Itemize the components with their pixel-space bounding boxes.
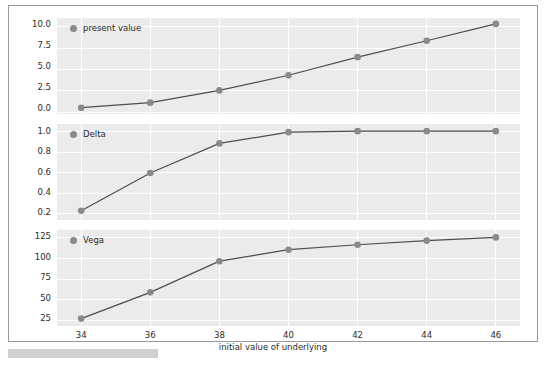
x-tick-label: 40 (274, 330, 304, 340)
y-tick-label: 10.0 (9, 19, 51, 29)
legend-marker-icon (70, 237, 77, 244)
y-tick-label: 25 (9, 313, 51, 323)
y-tick-label: 0.0 (9, 103, 51, 113)
data-point (354, 128, 361, 135)
panel-present-value: present value (57, 18, 520, 114)
legend-marker-icon (70, 25, 77, 32)
data-point (423, 237, 430, 244)
legend-vega: Vega (70, 235, 104, 245)
y-tick-label: 2.5 (9, 82, 51, 92)
data-point (354, 241, 361, 248)
data-line (81, 24, 496, 108)
data-point (78, 104, 85, 111)
data-point (354, 54, 361, 61)
y-tick-label: 0.8 (9, 146, 51, 156)
legend-marker-icon (70, 131, 77, 138)
legend-delta: Delta (70, 129, 106, 139)
data-point (423, 37, 430, 44)
figure-caption (8, 348, 158, 358)
x-tick-label: 42 (343, 330, 373, 340)
legend-label: Delta (83, 129, 106, 139)
data-point (147, 99, 154, 106)
data-point (423, 128, 430, 135)
data-point (493, 21, 500, 28)
data-point (285, 129, 292, 136)
series-vega (57, 230, 520, 326)
y-tick-label: 50 (9, 293, 51, 303)
data-point (216, 140, 223, 147)
figure-frame: present value Delta (8, 5, 538, 342)
y-tick-label: 75 (9, 272, 51, 282)
legend-label: present value (83, 23, 141, 33)
x-tick-label: 46 (481, 330, 511, 340)
legend-present-value: present value (70, 23, 141, 33)
y-tick-label: 125 (9, 231, 51, 241)
data-point (285, 72, 292, 79)
data-point (147, 289, 154, 296)
y-tick-label: 100 (9, 252, 51, 262)
y-tick-label: 5.0 (9, 61, 51, 71)
y-tick-label: 1.0 (9, 126, 51, 136)
data-point (78, 315, 85, 322)
y-tick-label: 7.5 (9, 40, 51, 50)
chart-page: present value Delta (0, 0, 552, 367)
x-tick-label: 34 (66, 330, 96, 340)
legend-label: Vega (83, 235, 104, 245)
panel-delta: Delta (57, 124, 520, 220)
y-tick-label: 0.2 (9, 207, 51, 217)
data-line (81, 131, 496, 211)
data-point (78, 208, 85, 215)
data-point (147, 170, 154, 177)
series-delta (57, 124, 520, 220)
data-point (493, 128, 500, 135)
data-point (285, 246, 292, 253)
data-point (493, 234, 500, 241)
y-tick-label: 0.6 (9, 167, 51, 177)
data-point (216, 258, 223, 265)
y-tick-label: 0.4 (9, 187, 51, 197)
panel-vega: Vega (57, 230, 520, 326)
x-tick-label: 36 (135, 330, 165, 340)
data-point (216, 87, 223, 94)
caption-redaction (8, 349, 158, 358)
x-tick-label: 38 (204, 330, 234, 340)
x-tick-label: 44 (412, 330, 442, 340)
